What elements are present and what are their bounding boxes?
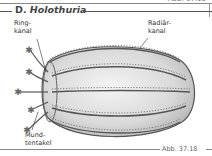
svg-text:✱: ✱ [25,45,33,55]
label-mundtentakel: Mund- tentakel [25,131,52,147]
bottom-caption: Abb. 37.18 [162,145,197,153]
svg-text:✱: ✱ [14,87,22,97]
bottom-divider [0,149,160,150]
label-radiaerkanal: Radiär- kanal [148,19,171,35]
svg-text:✱: ✱ [25,67,33,77]
label-ringkanal: Ring- kanal [14,19,32,35]
svg-text:✱: ✱ [27,105,35,115]
tentacle-tips: ✱ ✱ ✱ ✱ ✱ [14,45,35,135]
bottom-divider-right [206,149,212,150]
